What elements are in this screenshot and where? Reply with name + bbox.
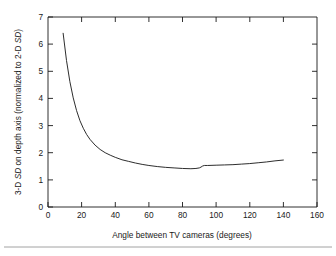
y-tick-label: 3 <box>38 121 43 131</box>
x-tick-label: 40 <box>111 210 121 220</box>
x-tick-label: 20 <box>77 210 87 220</box>
x-tick-label: 100 <box>209 210 223 220</box>
y-axis-title: 3-D SD on depth axis (normalized to 2-D … <box>13 29 23 195</box>
chart-figure: 0 20 40 60 80 100 120 140 160 0 1 2 3 4 … <box>0 0 336 256</box>
y-axis-title-sd1: SD <box>13 168 23 180</box>
x-tick-label: 0 <box>46 210 51 220</box>
y-tick-label: 5 <box>38 66 43 76</box>
y-tick-label: 0 <box>38 202 43 212</box>
y-tick-label: 2 <box>38 148 43 158</box>
y-axis-title-part5: ) <box>13 29 23 32</box>
x-tick-label: 80 <box>178 210 188 220</box>
y-tick-label: 6 <box>38 39 43 49</box>
y-tick-label: 7 <box>38 12 43 22</box>
y-axis-title-sd2: SD <box>13 32 23 44</box>
y-axis-title-part1: 3-D <box>13 179 23 195</box>
y-tick-label: 1 <box>38 175 43 185</box>
x-tick-label: 60 <box>144 210 154 220</box>
x-tick-label: 120 <box>243 210 257 220</box>
x-tick-label: 140 <box>276 210 290 220</box>
y-axis-title-part3: on depth axis (normalized to 2-D <box>13 43 23 168</box>
x-tick-label: 160 <box>310 210 324 220</box>
y-tick-label: 4 <box>38 93 43 103</box>
x-axis-title: Angle between TV cameras (degrees) <box>112 230 252 240</box>
